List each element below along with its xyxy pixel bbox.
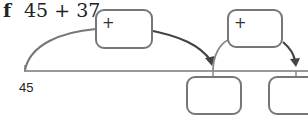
question-expression: 45 + 37 [24,0,100,21]
jump-arc-2b [283,42,295,61]
question-letter: f [3,0,11,21]
jump-box-1[interactable]: + [95,9,153,49]
arrowhead-2 [290,58,300,67]
jump-arc-1a [25,29,96,70]
answer-box-2[interactable] [268,76,308,115]
jump-arc-1b [148,30,211,61]
jump-box-2[interactable]: + [227,9,283,48]
start-value-label: 45 [19,80,33,95]
plus-sign: + [102,14,115,32]
plus-sign: + [234,14,247,32]
answer-box-1[interactable] [186,76,242,115]
jump-arc-2a [213,40,228,71]
